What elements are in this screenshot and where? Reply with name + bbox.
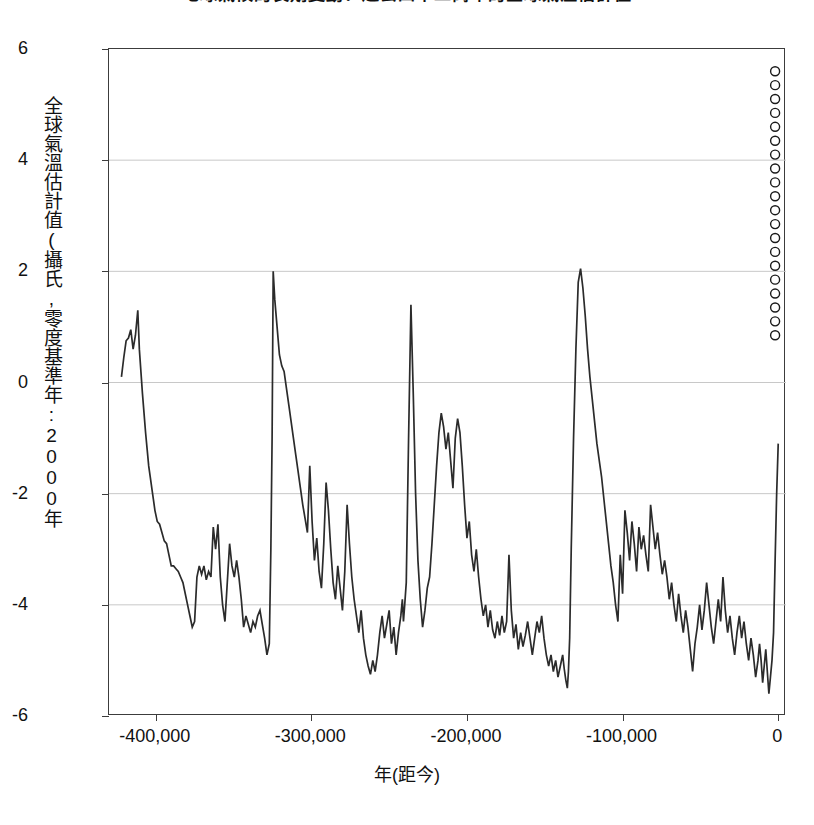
x-tick-label: -100,000 bbox=[557, 726, 687, 747]
y-tick-mark bbox=[102, 160, 109, 161]
x-axis-title: 年(距今) bbox=[0, 760, 814, 786]
projection-marker-circle bbox=[771, 206, 780, 215]
y-tick-mark bbox=[102, 605, 109, 606]
x-tick-mark bbox=[156, 714, 157, 721]
x-tick-mark bbox=[467, 714, 468, 721]
projection-markers bbox=[109, 49, 786, 716]
y-tick-label: 6 bbox=[0, 38, 28, 59]
projection-marker-circle bbox=[771, 303, 780, 312]
y-tick-mark bbox=[102, 716, 109, 717]
chart-title: 地球氣候的長期變動：過去四十二萬年的全球氣溫估計值 bbox=[0, 0, 814, 4]
projection-marker-circle bbox=[771, 178, 780, 187]
projection-marker-circle bbox=[771, 275, 780, 284]
x-tick-mark bbox=[623, 714, 624, 721]
projection-marker-circle bbox=[771, 289, 780, 298]
x-tick-label: -400,000 bbox=[90, 726, 220, 747]
projection-marker-circle bbox=[771, 67, 780, 76]
y-tick-mark bbox=[102, 383, 109, 384]
plot-area bbox=[108, 48, 785, 715]
y-tick-label: 0 bbox=[0, 372, 28, 393]
y-tick-label: 2 bbox=[0, 260, 28, 281]
projection-marker-circle bbox=[771, 331, 780, 340]
x-tick-mark bbox=[778, 714, 779, 721]
y-tick-label: -2 bbox=[0, 483, 28, 504]
projection-marker-circle bbox=[771, 220, 780, 229]
projection-marker-circle bbox=[771, 81, 780, 90]
x-tick-mark bbox=[311, 714, 312, 721]
y-tick-mark bbox=[102, 494, 109, 495]
projection-marker-circle bbox=[771, 192, 780, 201]
x-tick-label: 0 bbox=[712, 726, 814, 747]
projection-marker-circle bbox=[771, 164, 780, 173]
projection-marker-circle bbox=[771, 150, 780, 159]
y-tick-label: 4 bbox=[0, 149, 28, 170]
projection-marker-circle bbox=[771, 247, 780, 256]
projection-marker-circle bbox=[771, 95, 780, 104]
x-tick-label: -300,000 bbox=[245, 726, 375, 747]
projection-marker-circle bbox=[771, 261, 780, 270]
projection-marker-circle bbox=[771, 233, 780, 242]
projection-marker-circle bbox=[771, 136, 780, 145]
y-tick-label: -6 bbox=[0, 705, 28, 726]
projection-marker-circle bbox=[771, 122, 780, 131]
x-tick-label: -200,000 bbox=[401, 726, 531, 747]
y-tick-mark bbox=[102, 271, 109, 272]
y-tick-mark bbox=[102, 49, 109, 50]
y-tick-label: -4 bbox=[0, 594, 28, 615]
climate-chart-figure: 地球氣候的長期變動：過去四十二萬年的全球氣溫估計值 全球氣溫估計值(攝氏,零度基… bbox=[0, 0, 814, 825]
y-axis-title: 全球氣溫估計值(攝氏,零度基準年:2000年 bbox=[28, 96, 62, 656]
projection-marker-circle bbox=[771, 317, 780, 326]
projection-marker-circle bbox=[771, 108, 780, 117]
